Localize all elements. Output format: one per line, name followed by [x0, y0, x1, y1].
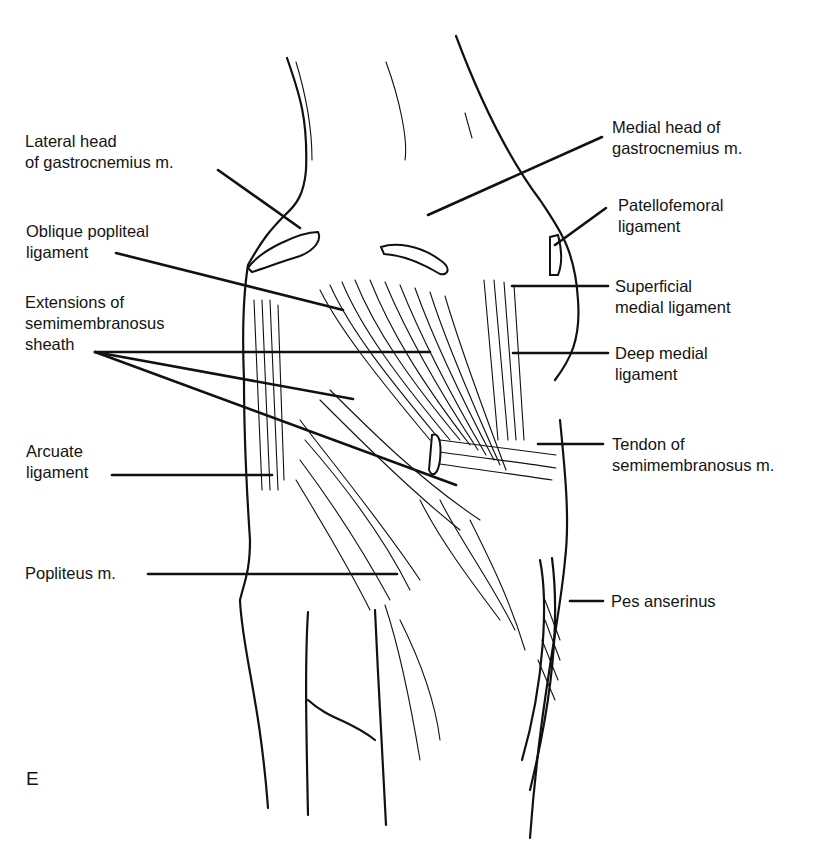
- label-line: Oblique popliteal: [26, 221, 149, 242]
- label-line: of gastrocnemius m.: [25, 152, 174, 173]
- label-line: gastrocnemius m.: [612, 138, 742, 159]
- label-lateral-head-gastrocnemius: Lateral head of gastrocnemius m.: [25, 131, 174, 173]
- label-line: Extensions of: [25, 292, 164, 313]
- leader-lateral-head-gastrocnemius: [218, 170, 300, 228]
- label-line: Tendon of: [612, 434, 774, 455]
- label-line: semimembranosus: [25, 313, 164, 334]
- label-patellofemoral-ligament: Patellofemoral ligament: [618, 195, 723, 237]
- label-superficial-medial-ligament: Superficial medial ligament: [615, 276, 731, 318]
- label-line: Superficial: [615, 276, 731, 297]
- label-line: ligament: [615, 364, 708, 385]
- gastrocnemius-stubs: [248, 232, 561, 275]
- knee-anatomy-figure: Lateral head of gastrocnemius m. Oblique…: [0, 0, 829, 841]
- femur-outline: [243, 36, 578, 380]
- label-line: Arcuate: [26, 441, 88, 462]
- label-line: Patellofemoral: [618, 195, 723, 216]
- leader-patellofemoral-ligament: [555, 208, 606, 245]
- leader-extensions-sheath-2: [95, 352, 353, 399]
- label-line: Popliteus m.: [25, 563, 116, 584]
- label-pes-anserinus: Pes anserinus: [611, 591, 716, 612]
- pes-anserinus-bands: [522, 558, 560, 790]
- label-deep-medial-ligament: Deep medial ligament: [615, 343, 708, 385]
- label-medial-head-gastrocnemius: Medial head of gastrocnemius m.: [612, 117, 742, 159]
- tibia-outline: [240, 380, 567, 838]
- label-line: Deep medial: [615, 343, 708, 364]
- label-extensions-semimembranosus-sheath: Extensions of semimembranosus sheath: [25, 292, 164, 355]
- leader-extensions-sheath-3: [95, 352, 456, 485]
- label-line: medial ligament: [615, 297, 731, 318]
- label-line: ligament: [26, 462, 88, 483]
- label-line: semimembranosus m.: [612, 455, 774, 476]
- label-line: sheath: [25, 334, 164, 355]
- label-line: ligament: [618, 216, 723, 237]
- leader-lines: [95, 137, 608, 601]
- label-line: Medial head of: [612, 117, 742, 138]
- label-arcuate-ligament: Arcuate ligament: [26, 441, 88, 483]
- leader-medial-head-gastrocnemius: [428, 137, 602, 215]
- semimembranosus-tendon: [429, 434, 441, 474]
- label-line: Lateral head: [25, 131, 174, 152]
- label-line: ligament: [26, 242, 149, 263]
- label-popliteus-muscle: Popliteus m.: [25, 563, 116, 584]
- label-oblique-popliteal-ligament: Oblique popliteal ligament: [26, 221, 149, 263]
- label-line: Pes anserinus: [611, 591, 716, 612]
- panel-letter: E: [26, 768, 39, 790]
- label-tendon-semimembranosus: Tendon of semimembranosus m.: [612, 434, 774, 476]
